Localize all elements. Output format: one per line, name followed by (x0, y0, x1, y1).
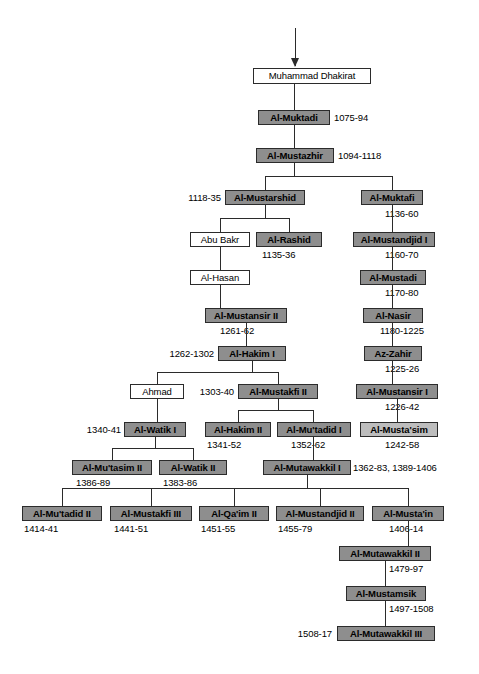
date-al-watik-i: 1340-41 (78, 425, 121, 435)
node-al-watik-ii[interactable]: Al-Watik II (159, 460, 227, 475)
connector-mustazhir-stem (294, 163, 295, 176)
node-ahmad[interactable]: Ahmad (130, 384, 184, 399)
date-al-mustarshid: 1118-35 (168, 193, 221, 203)
connector-mustarshid-stem (265, 205, 266, 218)
connector-muktadi-mustazhir (294, 125, 295, 148)
connector-to-mustarshid (265, 176, 266, 190)
date-al-mutawakkil-iii: 1508-17 (281, 629, 332, 639)
node-al-mustadi[interactable]: Al-Mustadi (360, 270, 426, 285)
connector-mustazhir-bus (265, 176, 392, 177)
date-al-mustamsik: 1497-1508 (389, 604, 434, 614)
node-al-rashid[interactable]: Al-Rashid (256, 232, 322, 247)
node-al-mustansir-i[interactable]: Al-Mustansir I (356, 384, 438, 399)
connector-mustadi-nasir (392, 285, 393, 308)
node-al-mutawakkil-ii[interactable]: Al-Mutawakkil II (339, 546, 431, 561)
genealogy-chart: Muhammad Dhakirat Al-Muktadi 1075-94 Al-… (0, 0, 479, 674)
date-al-mustain: 1406-14 (389, 524, 423, 534)
connector-watik-i-bus (112, 448, 193, 449)
node-abu-bakr[interactable]: Abu Bakr (190, 232, 250, 247)
date-al-mutawakkil-i: 1362-83, 1389-1406 (353, 463, 437, 473)
connector-mustansir-ii-hakim-i (246, 323, 247, 346)
connector-to-qaim-ii (234, 488, 235, 506)
connector-to-mustain (408, 488, 409, 506)
node-al-mutawakkil-i[interactable]: Al-Mutawakkil I (263, 460, 351, 475)
connector-azzahir-mustansir-i (392, 361, 393, 384)
connector-mustandjid-i-mustadi (392, 247, 393, 270)
connector-nasir-azzahir (392, 323, 393, 346)
connector-mustakfi-ii-bus (238, 410, 314, 411)
connector-to-watik-ii (193, 448, 194, 460)
node-al-mustarshid[interactable]: Al-Mustarshid (225, 190, 305, 205)
date-az-zahir: 1225-26 (385, 364, 419, 374)
connector-mustakfi-ii-stem (278, 399, 279, 410)
node-al-mustandjid-i[interactable]: Al-Mustandjid I (353, 232, 435, 247)
date-al-nasir: 1180-1225 (380, 326, 424, 336)
connector-to-mutadid-i (313, 410, 314, 422)
node-al-nasir[interactable]: Al-Nasir (363, 308, 423, 323)
date-al-mutadid-ii: 1414-41 (24, 524, 58, 534)
date-al-rashid: 1135-36 (262, 250, 295, 260)
node-al-mustandjid-ii[interactable]: Al-Mustandjid II (276, 506, 364, 521)
connector-dhakirat-muktadi (294, 84, 295, 110)
connector-mutadid-i-mutawakkil-i (313, 437, 314, 460)
node-al-mutawakkil-iii[interactable]: Al-Mutawakkil III (337, 626, 435, 641)
date-al-mutasim-ii: 1386-89 (76, 478, 110, 488)
connector-to-ahmad (157, 372, 158, 384)
date-al-mustakfi-ii: 1303-40 (183, 387, 234, 397)
date-al-hakim-i: 1262-1302 (154, 349, 214, 359)
connector-to-mutasim-ii (112, 448, 113, 460)
node-al-mustakfi-ii[interactable]: Al-Mustakfi II (238, 384, 318, 399)
date-al-mustansir-ii: 1261-62 (220, 326, 254, 336)
date-al-mustasim: 1242-58 (385, 440, 419, 450)
node-az-zahir[interactable]: Az-Zahir (364, 346, 422, 361)
connector-mutawakkil-i-stem (307, 475, 308, 488)
date-al-watik-ii: 1383-86 (163, 478, 197, 488)
date-al-mustazhir: 1094-1118 (338, 151, 381, 161)
connector-to-mustakfi-iii (151, 488, 152, 506)
connector-mustain-mutawakkil-ii (408, 521, 409, 546)
connector-to-mustandjid-ii (320, 488, 321, 506)
node-al-mustamsik[interactable]: Al-Mustamsik (346, 586, 426, 601)
connector-to-al-rashid (289, 218, 290, 232)
date-al-mutawakkil-ii: 1479-97 (389, 564, 423, 574)
connector-mustansir-i-mustasim (397, 399, 398, 422)
date-al-muktadi: 1075-94 (334, 113, 368, 123)
date-al-mutadid-i: 1352-62 (291, 440, 325, 450)
connector-mustarshid-bus (220, 218, 290, 219)
node-al-mutadid-i[interactable]: Al-Mu'tadid I (277, 422, 351, 437)
node-al-watik-i[interactable]: Al-Watik I (124, 422, 186, 437)
node-al-hasan[interactable]: Al-Hasan (190, 270, 250, 285)
node-muhammad-dhakirat[interactable]: Muhammad Dhakirat (253, 68, 371, 84)
connector-muktafi-mustandjid-i (392, 205, 393, 232)
node-al-mustain[interactable]: Al-Musta'in (372, 506, 444, 521)
date-al-mustadi: 1170-80 (385, 288, 418, 298)
connector-to-hakim-ii (238, 410, 239, 422)
connector-hasan-mustansir-ii (220, 285, 221, 308)
node-al-hakim-i[interactable]: Al-Hakim I (218, 346, 286, 361)
node-al-mutadid-ii[interactable]: Al-Mu'tadid II (22, 506, 102, 521)
node-al-mustazhir[interactable]: Al-Mustazhir (256, 148, 334, 163)
down-arrow-icon (291, 58, 299, 67)
node-al-mustakfi-iii[interactable]: Al-Mustakfi III (110, 506, 192, 521)
node-al-qaim-ii[interactable]: Al-Qa'im II (199, 506, 269, 521)
connector-abubakr-hasan (220, 247, 221, 270)
connector-to-mutadid-ii (62, 488, 63, 506)
connector-mustamsik-mutawakkil-iii (385, 601, 386, 626)
connector-mutawakkil-ii-mustamsik (385, 561, 386, 586)
date-al-mustandjid-i: 1160-70 (385, 250, 418, 260)
connector-mutawakkil-i-bus (62, 488, 408, 489)
connector-hakim-i-stem (252, 361, 253, 372)
node-al-mutasim-ii[interactable]: Al-Mu'tasim II (72, 460, 152, 475)
node-al-mustansir-ii[interactable]: Al-Mustansir II (205, 308, 287, 323)
node-al-hakim-ii[interactable]: Al-Hakim II (205, 422, 271, 437)
date-al-hakim-ii: 1341-52 (207, 440, 241, 450)
connector-ahmad-watik-i (157, 399, 158, 422)
date-al-mustansir-i: 1226-42 (385, 402, 419, 412)
connector-to-muktafi (392, 176, 393, 190)
node-al-mustasim[interactable]: Al-Musta'sim (360, 422, 438, 437)
connector-to-mustakfi-ii (278, 372, 279, 384)
connector-to-abu-bakr (220, 218, 221, 232)
node-al-muktafi[interactable]: Al-Muktafi (361, 190, 423, 205)
node-al-muktadi[interactable]: Al-Muktadi (258, 110, 330, 125)
date-al-mustandjid-ii: 1455-79 (278, 524, 312, 534)
